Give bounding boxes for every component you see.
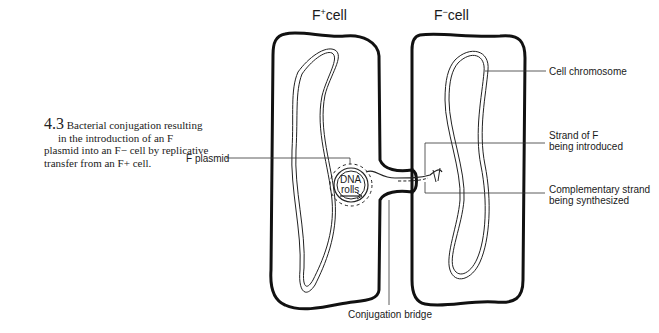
- strand-introduced-label: Strand of F: [549, 130, 598, 141]
- conjugation-diagram: F+cell F−cell DNA rolls F plasmid Cell c…: [0, 0, 659, 333]
- strand-introduced-label-2: being introduced: [549, 141, 623, 152]
- f-minus-chromosome: [445, 51, 489, 279]
- f-plus-chromosome: [292, 49, 339, 292]
- conjugation-bridge-label: Conjugation bridge: [348, 309, 432, 320]
- complementary-strand-label-2: being synthesized: [549, 195, 629, 206]
- f-plus-cell-title: F+cell: [312, 7, 347, 23]
- dna-rolls-label-2: rolls: [341, 184, 359, 195]
- strand-introduced-leader: [425, 143, 545, 175]
- f-plasmid-label: F plasmid: [186, 153, 229, 164]
- complementary-strand-label: Complementary strand: [549, 184, 650, 195]
- cell-chromosome-label: Cell chromosome: [549, 66, 627, 77]
- f-minus-cell-outline: [412, 34, 525, 305]
- f-minus-cell-title: F−cell: [434, 7, 469, 23]
